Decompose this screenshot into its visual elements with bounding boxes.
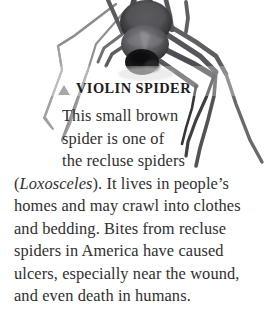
caption-line-1: This small brown	[62, 105, 178, 128]
caption-line-5: homes and may crawl into clothes	[14, 195, 241, 218]
caption-heading: VIOLIN SPIDER	[58, 80, 191, 97]
caption-line-7: spiders in America have caused	[14, 240, 224, 263]
caption-line-3: the recluse spiders	[62, 150, 185, 173]
caption-line-8: ulcers, especially near the wound,	[14, 263, 240, 286]
genus-name: Loxosceles	[20, 174, 93, 193]
caption-heading-label: VIOLIN SPIDER	[76, 80, 191, 97]
caption-line-9: and even death in humans.	[14, 285, 191, 308]
caption-line-4: (Loxosceles). It lives in people’s	[14, 173, 229, 196]
caption-line-2: spider is one of	[62, 128, 164, 151]
line-4-rest: ). It lives in people’s	[92, 174, 229, 193]
caption-line-6: and bedding. Bites from recluse	[14, 218, 226, 241]
triangle-up-icon	[58, 85, 70, 95]
figure-caption-page: VIOLIN SPIDER This small brown spider is…	[0, 0, 276, 318]
